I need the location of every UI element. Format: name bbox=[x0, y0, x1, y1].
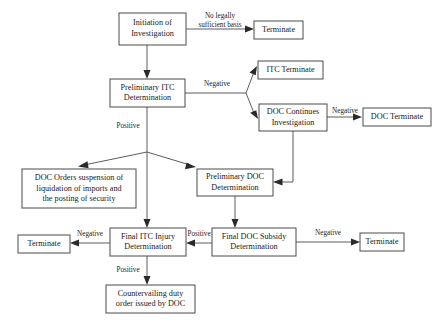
arrow-head-icon bbox=[144, 70, 151, 79]
edge-final-itc-negative bbox=[70, 240, 110, 247]
node-label-line: Terminate bbox=[262, 25, 295, 34]
edge-line bbox=[280, 131, 293, 182]
nodes-layer: Initiation of Investigation Terminate Pr… bbox=[18, 13, 431, 313]
node-doc-terminate[interactable]: DOC Terminate bbox=[363, 108, 431, 126]
node-label-line: Determination bbox=[124, 242, 171, 251]
node-label-line: Final DOC Subsidy bbox=[222, 232, 288, 241]
edge-label-final-doc-negative: Negative bbox=[315, 229, 341, 237]
node-label-line: Initiation of bbox=[133, 18, 172, 27]
node-itc-terminate[interactable]: ITC Terminate bbox=[258, 61, 323, 79]
node-label-line: Determination bbox=[211, 183, 258, 192]
edge-label-no-legally-basis-line2: sufficient basis bbox=[198, 21, 241, 29]
node-initiation-of-investigation[interactable]: Initiation of Investigation bbox=[119, 13, 186, 45]
arrow-head-icon bbox=[78, 161, 89, 168]
edge-label-final-itc-negative: Negative bbox=[77, 230, 103, 238]
node-label-line: Preliminary DOC bbox=[206, 172, 265, 181]
node-label-line: DOC Orders suspension of bbox=[35, 173, 124, 182]
edge-label-final-doc-positive: Positive bbox=[187, 230, 210, 238]
node-preliminary-itc-determination[interactable]: Preliminary ITC Determination bbox=[110, 79, 185, 107]
arrow-head-icon bbox=[144, 276, 151, 285]
node-final-doc-subsidy-determination[interactable]: Final DOC Subsidy Determination bbox=[212, 228, 296, 256]
node-label-line: Investigation bbox=[272, 118, 315, 127]
arrow-head-icon bbox=[351, 239, 360, 246]
node-doc-orders-suspension[interactable]: DOC Orders suspension of liquidation of … bbox=[22, 169, 136, 208]
edge-final-doc-to-final-itc bbox=[186, 240, 212, 247]
arrow-head-icon bbox=[144, 219, 151, 228]
node-terminate-left[interactable]: Terminate bbox=[18, 235, 70, 253]
node-terminate-top[interactable]: Terminate bbox=[254, 21, 303, 39]
edge-label-final-itc-positive: Positive bbox=[116, 266, 139, 274]
flowchart-canvas: No legally sufficient basis Negative Neg… bbox=[0, 0, 445, 322]
edge-line bbox=[246, 93, 254, 113]
node-terminate-right[interactable]: Terminate bbox=[360, 233, 404, 251]
flowchart-page: No legally sufficient basis Negative Neg… bbox=[0, 0, 445, 322]
node-label-line: liquidation of imports and bbox=[36, 184, 121, 193]
node-label-line: order issued by DOC bbox=[116, 299, 186, 308]
node-preliminary-doc-determination[interactable]: Preliminary DOC Determination bbox=[197, 169, 273, 196]
edge-prelim-doc-to-final-doc bbox=[232, 196, 239, 228]
arrow-head-icon bbox=[273, 179, 283, 186]
edge-line bbox=[84, 152, 147, 165]
node-final-itc-injury-determination[interactable]: Final ITC Injury Determination bbox=[110, 228, 186, 256]
arrow-head-icon bbox=[70, 240, 79, 247]
node-label-line: DOC Continues bbox=[267, 107, 320, 116]
edge-split-to-prelim-doc bbox=[147, 152, 196, 169]
edge-label-prelim-itc-negative: Negative bbox=[204, 80, 230, 88]
node-label-line: ITC Terminate bbox=[266, 65, 315, 74]
arrow-head-icon bbox=[185, 163, 196, 170]
arrow-head-icon bbox=[186, 240, 195, 247]
arrow-head-icon bbox=[245, 26, 254, 33]
edge-line bbox=[246, 72, 254, 93]
node-label-line: Terminate bbox=[365, 237, 398, 246]
node-label-line: Countervailing duty bbox=[118, 289, 185, 298]
edge-split-to-doc-orders bbox=[78, 152, 147, 168]
node-label-line: the posting of security bbox=[43, 194, 117, 203]
edge-final-itc-positive bbox=[144, 256, 151, 285]
edge-final-doc-negative bbox=[296, 239, 360, 246]
node-label-line: DOC Terminate bbox=[371, 112, 424, 121]
node-label-line: Preliminary ITC bbox=[121, 83, 175, 92]
edge-label-doc-continues-negative: Negative bbox=[332, 107, 358, 115]
edge-line bbox=[147, 152, 190, 165]
arrow-head-icon bbox=[232, 219, 239, 228]
node-countervailing-duty-order[interactable]: Countervailing duty order issued by DOC bbox=[106, 285, 195, 313]
node-label-line: Investigation bbox=[131, 29, 174, 38]
node-label-line: Final ITC Injury bbox=[121, 232, 176, 241]
node-label-line: Terminate bbox=[27, 239, 60, 248]
edge-initiation-to-prelim-itc bbox=[144, 45, 151, 79]
edge-split-to-final-itc bbox=[144, 152, 151, 228]
edge-label-prelim-itc-positive: Positive bbox=[116, 122, 139, 130]
node-label-line: Determination bbox=[124, 93, 171, 102]
edge-doc-continues-to-prelim-doc bbox=[273, 131, 293, 186]
node-doc-continues-investigation[interactable]: DOC Continues Investigation bbox=[259, 104, 327, 131]
arrow-head-icon bbox=[250, 110, 258, 119]
edge-prelim-itc-negative-branch bbox=[185, 66, 258, 119]
arrow-head-icon bbox=[250, 66, 258, 75]
edge-label-no-legally-basis-line1: No legally bbox=[205, 12, 236, 20]
node-label-line: Determination bbox=[230, 242, 277, 251]
